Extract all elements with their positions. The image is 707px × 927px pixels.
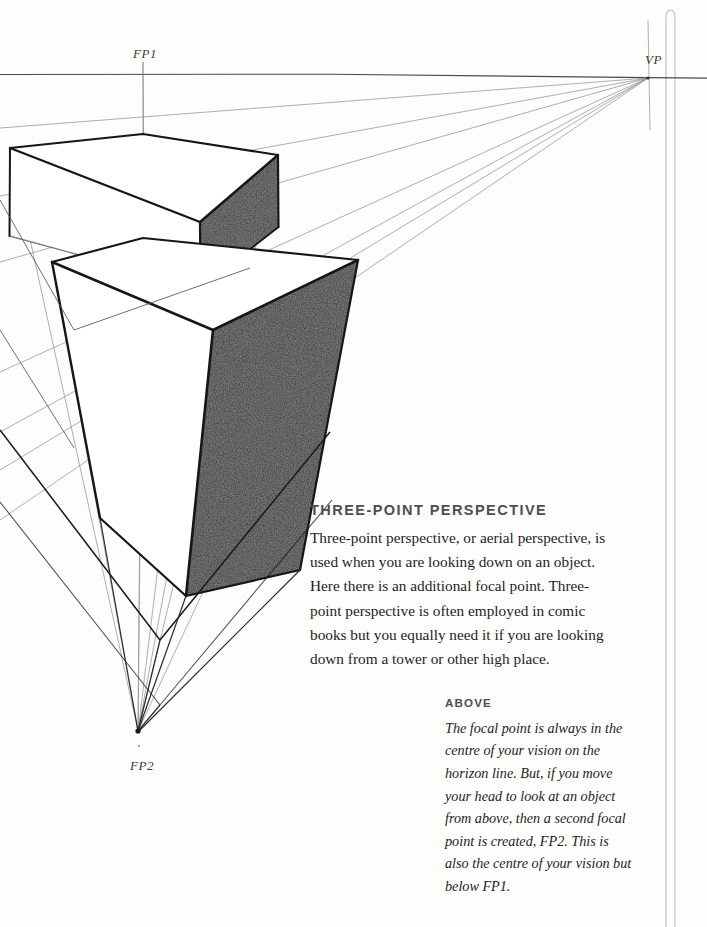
vp-vertical-line [648,20,650,130]
caption-body-line: below FP1. [445,875,645,898]
article-text-block: THREE-POINT PERSPECTIVE Three-point pers… [310,503,650,671]
caption-body-line: point is created, FP2. This is [445,830,645,853]
article-body-line: used when you are looking down on an obj… [310,550,646,574]
fp2-tick [138,745,140,747]
caption-body-line: horizon line. But, if you move [445,762,645,785]
label-vp: VP [645,52,662,68]
caption-body-line: also the centre of your vision but [445,852,645,875]
article-body-line: Here there is an additional focal point.… [310,574,646,598]
caption-body-line: centre of your vision on the [445,739,645,762]
article-body-line: point perspective is often employed in c… [310,599,646,623]
article-heading: THREE-POINT PERSPECTIVE [310,503,650,519]
vp-point [646,76,649,79]
label-fp1: FP1 [133,46,157,62]
caption-body-line: The focal point is always in the [445,717,645,740]
fp2-point [135,728,140,733]
book-page: FP1 VP FP2 THREE-POINT PERSPECTIVE Three… [0,0,707,927]
caption-block: ABOVE The focal point is always in thece… [445,697,650,898]
caption-body: The focal point is always in thecentre o… [445,717,645,898]
horizon-line [0,74,707,78]
caption-body-line: your head to look at an object [445,785,645,808]
caption-heading: ABOVE [445,697,650,710]
label-fp2: FP2 [130,758,154,774]
article-body: Three-point perspective, or aerial persp… [310,526,646,671]
caption-body-line: from above, then a second focal [445,807,645,830]
page-edge-rule [666,10,675,927]
article-body-line: Three-point perspective, or aerial persp… [310,526,646,550]
article-body-line: down from a tower or other high place. [310,647,646,671]
article-body-line: books but you equally need it if you are… [310,623,646,647]
